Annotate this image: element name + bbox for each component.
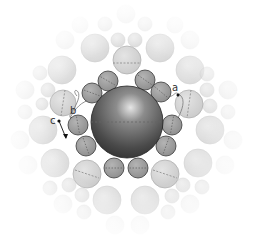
solvation-shell-diagram: a b c xyxy=(0,0,258,242)
edge-fade xyxy=(0,0,258,242)
